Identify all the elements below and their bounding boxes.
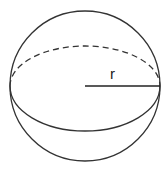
sphere-diagram: r [0, 0, 168, 169]
equator-front-arc [10, 86, 160, 131]
radius-label: r [110, 65, 115, 82]
equator-back-arc-dashed [10, 46, 160, 86]
